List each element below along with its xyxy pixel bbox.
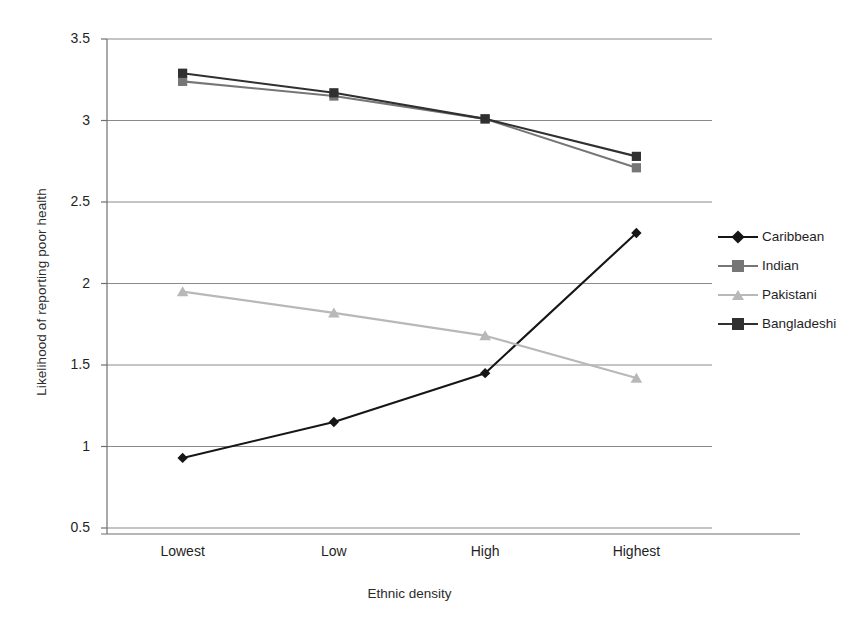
- chart-container: Likelihood of reporting poor health Ethn…: [0, 0, 860, 636]
- x-axis-title: Ethnic density: [107, 586, 712, 601]
- legend-label: Caribbean: [762, 229, 824, 244]
- square-marker-icon: [732, 260, 744, 272]
- y-tick-label: 2: [46, 275, 90, 291]
- x-tick-label: Low: [264, 543, 404, 559]
- y-tick-label: 1: [46, 438, 90, 454]
- series-caribbean: [177, 228, 641, 463]
- data-point: [481, 114, 490, 123]
- triangle-marker-icon: [732, 290, 744, 300]
- y-tick-label: 0.5: [46, 519, 90, 535]
- legend-key: [718, 258, 758, 274]
- legend-key: [718, 287, 758, 303]
- legend-label: Pakistani: [762, 287, 817, 302]
- data-point: [329, 88, 338, 97]
- legend-key: [718, 316, 758, 332]
- x-tick-label: High: [415, 543, 555, 559]
- legend-item-bangladeshi[interactable]: Bangladeshi: [718, 315, 836, 332]
- chart-legend: CaribbeanIndianPakistaniBangladeshi: [718, 228, 836, 332]
- data-point: [177, 453, 187, 463]
- legend-item-indian[interactable]: Indian: [718, 257, 836, 274]
- series-line: [183, 233, 637, 458]
- series-pakistani: [177, 286, 642, 382]
- data-point: [178, 77, 187, 86]
- series-line: [183, 73, 637, 156]
- data-point: [632, 163, 641, 172]
- data-point: [178, 69, 187, 78]
- x-tick-label: Lowest: [113, 543, 253, 559]
- y-axis-title: Likelihood of reporting poor health: [34, 27, 52, 557]
- y-tick-label: 3.5: [46, 30, 90, 46]
- legend-item-pakistani[interactable]: Pakistani: [718, 286, 836, 303]
- data-point: [632, 152, 641, 161]
- legend-label: Indian: [762, 258, 799, 273]
- legend-key: [718, 229, 758, 245]
- y-tick-label: 1.5: [46, 356, 90, 372]
- series-line: [183, 81, 637, 167]
- series-indian: [178, 77, 641, 173]
- legend-item-caribbean[interactable]: Caribbean: [718, 228, 836, 245]
- legend-label: Bangladeshi: [762, 316, 836, 331]
- x-tick-label: Highest: [566, 543, 706, 559]
- y-tick-label: 3: [46, 112, 90, 128]
- data-point: [329, 417, 339, 427]
- square-marker-icon: [732, 318, 744, 330]
- diamond-marker-icon: [731, 230, 744, 243]
- y-tick-label: 2.5: [46, 193, 90, 209]
